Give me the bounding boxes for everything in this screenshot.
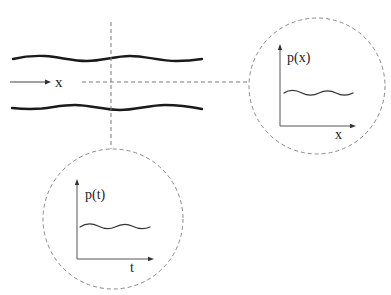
- pipe: [12, 56, 202, 110]
- p-x-x-axis-arrow-icon: [350, 124, 356, 128]
- inset-temporal-pressure: p(t) t: [43, 149, 183, 289]
- inset-circle-right: [249, 18, 385, 154]
- p-t-y-axis-arrow-icon: [75, 179, 79, 185]
- p-x-y-label: p(x): [287, 50, 311, 66]
- inset-circle-bottom: [43, 149, 183, 289]
- flow-arrowhead-icon: [45, 80, 51, 85]
- p-x-y-axis-arrow-icon: [278, 44, 282, 50]
- pipe-bottom-wall: [12, 105, 202, 110]
- pipe-top-wall: [13, 56, 202, 61]
- p-t-y-label: p(t): [85, 187, 106, 203]
- p-t-signal-curve: [80, 224, 150, 229]
- flow-direction-label: x: [55, 74, 63, 90]
- flow-direction-indicator: x: [10, 74, 63, 90]
- inset-spatial-pressure: p(x) x: [249, 18, 385, 154]
- p-t-x-axis-arrow-icon: [148, 257, 154, 261]
- pipe-flow-diagram: x p(x) x p(t) t: [0, 0, 391, 295]
- p-x-signal-curve: [284, 90, 353, 95]
- p-t-x-label: t: [130, 260, 134, 275]
- p-x-x-label: x: [335, 127, 342, 142]
